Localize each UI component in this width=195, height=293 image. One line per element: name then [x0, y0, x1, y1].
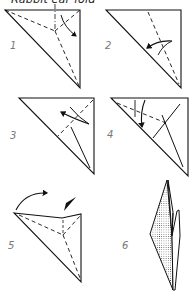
step-number-4: 4 — [107, 129, 113, 140]
step-number-2: 2 — [105, 40, 111, 51]
fold-arrow-icon — [61, 15, 76, 36]
step-number-3: 3 — [10, 130, 16, 141]
step-2-diagram — [106, 10, 181, 88]
step-5-diagram — [14, 193, 81, 282]
step-number-1: 1 — [10, 40, 16, 51]
fold-arrow-icon — [147, 41, 172, 48]
step-3-diagram — [19, 98, 94, 174]
flip-arrow-icon — [16, 193, 47, 210]
step-4-diagram — [111, 98, 188, 176]
fold-diagram — [0, 0, 195, 293]
step-number-5: 5 — [8, 240, 14, 251]
push-arrow-icon — [64, 197, 76, 211]
step-number-6: 6 — [122, 240, 128, 251]
fold-arrow-icon — [61, 112, 89, 124]
step-6-diagram — [150, 180, 180, 290]
